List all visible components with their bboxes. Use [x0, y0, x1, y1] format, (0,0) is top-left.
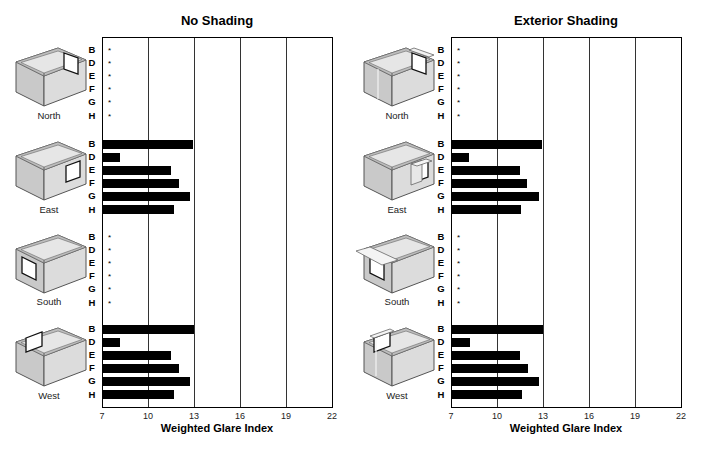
row-label-b: B	[435, 139, 447, 149]
row-label-e: E	[435, 165, 447, 175]
gridline	[635, 38, 636, 407]
row-label-d: D	[435, 58, 447, 68]
row-label-d: D	[435, 152, 447, 162]
room-north-shaded-icon	[356, 40, 438, 108]
no-data-marker: *	[457, 300, 460, 308]
no-data-marker: *	[457, 113, 460, 121]
bar-west-e	[452, 351, 520, 360]
room-south-shaded-icon	[356, 227, 438, 295]
no-data-marker: *	[457, 247, 460, 255]
x-axis-label: Weighted Glare Index	[451, 422, 681, 434]
bar-west-h	[452, 390, 522, 399]
room-label-north: North	[356, 110, 438, 121]
x-tick-label: 19	[623, 411, 647, 421]
row-label-b: B	[435, 45, 447, 55]
bar-east-g	[452, 192, 539, 201]
row-label-h: H	[435, 111, 447, 121]
no-data-marker: *	[457, 47, 460, 55]
row-label-g: G	[435, 191, 447, 201]
x-tick-label: 16	[577, 411, 601, 421]
row-label-g: G	[435, 97, 447, 107]
no-data-marker: *	[457, 86, 460, 94]
no-data-marker: *	[457, 73, 460, 81]
panel-title: Exterior Shading	[451, 13, 681, 28]
bar-west-f	[452, 364, 528, 373]
bar-west-b	[452, 325, 543, 334]
bar-east-e	[452, 166, 520, 175]
bar-east-d	[452, 153, 469, 162]
x-tick-label: 13	[531, 411, 555, 421]
no-data-marker: *	[457, 286, 460, 294]
gridline	[543, 38, 544, 407]
plot-area: ************	[451, 37, 682, 408]
room-label-west: West	[356, 390, 438, 401]
row-label-f: F	[435, 363, 447, 373]
row-label-e: E	[435, 258, 447, 268]
row-label-e: E	[435, 71, 447, 81]
room-west-shaded-icon	[356, 320, 438, 388]
no-data-marker: *	[457, 260, 460, 268]
row-label-d: D	[435, 245, 447, 255]
room-label-south: South	[356, 296, 438, 307]
row-label-h: H	[435, 390, 447, 400]
row-label-f: F	[435, 271, 447, 281]
x-tick-label: 10	[485, 411, 509, 421]
bar-west-g	[452, 377, 539, 386]
row-label-f: F	[435, 178, 447, 188]
x-tick-label: 22	[669, 411, 693, 421]
row-label-h: H	[435, 298, 447, 308]
x-tick-label: 7	[439, 411, 463, 421]
room-label-east: East	[356, 204, 438, 215]
gridline	[589, 38, 590, 407]
row-label-d: D	[435, 337, 447, 347]
no-data-marker: *	[457, 234, 460, 242]
row-label-b: B	[435, 324, 447, 334]
bar-west-d	[452, 338, 470, 347]
room-east-shaded-icon	[356, 134, 438, 202]
bar-east-h	[452, 205, 521, 214]
row-label-e: E	[435, 350, 447, 360]
bar-east-f	[452, 179, 527, 188]
row-label-g: G	[435, 376, 447, 386]
no-data-marker: *	[457, 99, 460, 107]
no-data-marker: *	[457, 273, 460, 281]
row-label-f: F	[435, 84, 447, 94]
bar-east-b	[452, 140, 542, 149]
panel-exterior-shading: Exterior Shading North East South	[0, 0, 351, 451]
row-label-h: H	[435, 205, 447, 215]
no-data-marker: *	[457, 60, 460, 68]
row-label-b: B	[435, 232, 447, 242]
row-label-g: G	[435, 284, 447, 294]
